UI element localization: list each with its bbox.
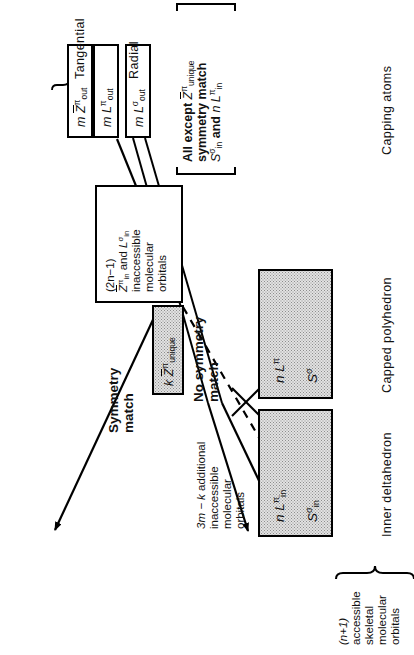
capping-label-2: m Lπout — [100, 88, 114, 127]
caption-capped-polyhedron: Capped polyhedron — [380, 277, 394, 393]
k-z-unique-label: k Zπunique — [162, 337, 176, 386]
inner-deltahedron-box: n Lπin Sσin — [258, 409, 333, 537]
symmetry-match-line-1: Symmetry — [106, 368, 121, 433]
accessible-orbitals-brace-text: (n+1) accessible skeletal molecular orbi… — [337, 591, 401, 645]
additional-line-3: molecular — [221, 442, 234, 529]
inaccessible-line-4: molecular — [143, 229, 156, 292]
accessible-line-4: molecular — [376, 591, 389, 645]
accessible-line-3: skeletal — [363, 591, 376, 645]
bracket-note-line-1: All except Zπunique — [181, 60, 195, 162]
symmetry-match-line-2: match — [121, 368, 136, 433]
additional-line-1: 3m − k additional — [195, 442, 208, 529]
bracket-note-line-2: symmetry match — [195, 60, 209, 162]
additional-line-2: inaccessible — [208, 442, 221, 529]
inner-deltahedron-bottom-label: Sσin — [305, 500, 321, 522]
inner-deltahedron-top-label: n Lπin — [272, 490, 288, 522]
additional-inaccessible-text: 3m − k additional inaccessible molecular… — [195, 442, 247, 529]
edge-label-no-symmetry-match: No symmetry match — [191, 316, 221, 402]
diagram-canvas: (2n−1) Zπin and Lσin inaccessible molecu… — [0, 0, 414, 655]
inaccessible-line-5: orbitals — [156, 229, 169, 292]
capping-box-l-out-pi: m Lπout — [93, 44, 119, 138]
caption-capping-atoms: Capping atoms — [380, 66, 394, 155]
capped-polyhedron-top-label: n Lπ — [272, 358, 288, 383]
bracket-right-rule — [176, 3, 236, 11]
no-symmetry-match-line-2: match — [206, 316, 221, 402]
bracket-left-rule — [176, 167, 236, 175]
label-tangential: Tangential — [73, 18, 87, 79]
inaccessible-line-2: Zπin and Lσin — [117, 229, 130, 292]
cross-out-mark — [232, 388, 260, 416]
accessible-line-1: (n+1) — [337, 591, 350, 645]
additional-line-4: orbitals — [234, 442, 247, 529]
symbol-Z-out-pi: Z — [74, 105, 88, 113]
edge-label-symmetry-match: Symmetry match — [106, 368, 136, 433]
symbol-Z-unique: Z — [162, 369, 176, 377]
k-z-unique-box: k Zπunique — [152, 305, 184, 395]
brace-accessible-orbitals — [336, 566, 414, 579]
accessible-line-5: orbitals — [389, 591, 402, 645]
label-radial: Radial — [127, 41, 141, 79]
capped-polyhedron-bottom-label: Sσ — [305, 368, 321, 383]
inaccessible-molecular-orbitals-box: (2n−1) Zπin and Lσin inaccessible molecu… — [95, 185, 183, 303]
bracket-note-line-3: Sσin and n Lπin — [209, 60, 223, 162]
bracket-note: All except Zπunique symmetry match Sσin … — [176, 3, 236, 175]
capping-label-1: m Zπout — [74, 88, 88, 127]
no-symmetry-match-line-1: No symmetry — [191, 316, 206, 402]
capping-label-3: m Lσout — [132, 89, 146, 127]
caption-inner-deltahedron: Inner deltahedron — [380, 432, 394, 537]
symbol-Z-in-pi: Z — [117, 285, 130, 292]
symbol-Z-unique-note: Z — [181, 92, 195, 100]
inaccessible-line-3: inaccessible — [130, 229, 143, 292]
accessible-line-2: accessible — [350, 591, 363, 645]
capped-polyhedron-box: n Lπ Sσ — [258, 269, 333, 399]
